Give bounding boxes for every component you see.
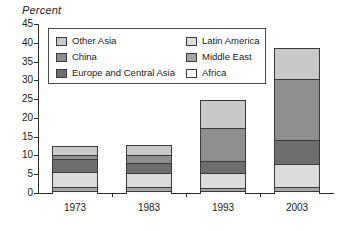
bar-segment-latin-america [201, 174, 245, 189]
legend-swatch-china [56, 53, 67, 62]
y-tick-label: 15 [11, 132, 33, 142]
legend-swatch-middle-east [186, 53, 197, 62]
bar-1993 [200, 100, 246, 193]
legend-label: Europe and Central Asia [72, 68, 175, 78]
bar-segment-africa [53, 192, 97, 194]
chart-root: Percent 051015202530354045 1973198319932… [0, 0, 353, 231]
x-tick [260, 193, 261, 197]
bar-1983 [126, 145, 172, 193]
legend-label: Other Asia [72, 36, 116, 46]
bar-segment-latin-america [53, 173, 97, 188]
legend-swatch-other-asia [56, 37, 67, 46]
y-tick [34, 62, 38, 63]
legend-swatch-latin-america [186, 37, 197, 46]
x-tick-label: 1983 [119, 202, 179, 213]
x-tick-label: 1993 [193, 202, 253, 213]
y-tick [34, 174, 38, 175]
y-axis-line [38, 24, 39, 193]
legend-item: Other Asia [56, 36, 186, 46]
legend-item: Europe and Central Asia [56, 68, 186, 78]
y-tick-label: 40 [11, 38, 33, 48]
y-tick [34, 155, 38, 156]
legend-item: Latin America [186, 36, 274, 46]
legend-label: Africa [202, 68, 226, 78]
bar-segment-europe-and-central-asia [275, 141, 319, 165]
y-tick-label: 25 [11, 94, 33, 104]
bar-segment-china [275, 80, 319, 141]
bar-segment-latin-america [127, 174, 171, 189]
y-tick-label: 0 [11, 188, 33, 198]
bar-segment-africa [275, 192, 319, 194]
bar-segment-china [127, 156, 171, 164]
x-tick-label: 2003 [267, 202, 327, 213]
legend-swatch-africa [186, 69, 197, 78]
y-tick [34, 80, 38, 81]
legend-item: China [56, 52, 186, 62]
bar-1973 [52, 146, 98, 193]
bar-segment-latin-america [275, 165, 319, 188]
y-tick [34, 43, 38, 44]
legend-item: Middle East [186, 52, 274, 62]
y-tick-label: 5 [11, 169, 33, 179]
x-tick-label: 1973 [45, 202, 105, 213]
y-tick [34, 137, 38, 138]
y-tick-label: 20 [11, 113, 33, 123]
bar-segment-africa [127, 192, 171, 194]
bar-segment-china [201, 129, 245, 162]
legend-label: China [72, 52, 97, 62]
y-tick-label: 30 [11, 75, 33, 85]
x-tick [112, 193, 113, 197]
x-tick [186, 193, 187, 197]
bar-segment-other-asia [201, 101, 245, 129]
legend-label: Middle East [202, 52, 252, 62]
legend-item: Africa [186, 68, 274, 78]
legend-label: Latin America [202, 36, 260, 46]
legend: Other AsiaLatin AmericaChinaMiddle EastE… [48, 28, 266, 84]
y-tick [34, 118, 38, 119]
bar-segment-europe-and-central-asia [53, 160, 97, 172]
bar-segment-other-asia [275, 49, 319, 81]
y-tick [34, 193, 38, 194]
y-tick [34, 99, 38, 100]
bar-segment-europe-and-central-asia [201, 162, 245, 174]
y-tick-label: 45 [11, 19, 33, 29]
legend-swatch-europe-central-asia [56, 69, 67, 78]
y-tick [34, 24, 38, 25]
y-axis-title: Percent [22, 4, 61, 16]
bar-segment-other-asia [53, 147, 97, 156]
bar-2003 [274, 48, 320, 193]
y-tick-label: 35 [11, 57, 33, 67]
bar-segment-other-asia [127, 146, 171, 156]
y-tick-label: 10 [11, 150, 33, 160]
bar-segment-europe-and-central-asia [127, 164, 171, 174]
bar-segment-africa [201, 192, 245, 194]
